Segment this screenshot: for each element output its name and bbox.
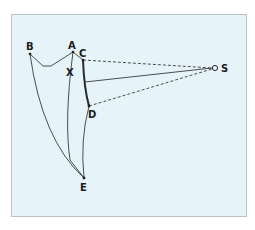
point-d-dot bbox=[88, 105, 91, 108]
diagram-canvas: B A C X D E S bbox=[0, 0, 255, 230]
label-s: S bbox=[221, 63, 228, 74]
label-e: E bbox=[80, 182, 87, 193]
point-a-dot bbox=[72, 51, 75, 54]
point-e-dot bbox=[83, 177, 86, 180]
label-a: A bbox=[68, 40, 76, 51]
source-point-s bbox=[212, 65, 217, 70]
top-zigzag-line bbox=[30, 52, 83, 66]
point-b-dot bbox=[29, 53, 32, 56]
arc-c-d bbox=[83, 60, 89, 106]
label-c: C bbox=[79, 48, 86, 59]
curve-b-e bbox=[30, 54, 84, 178]
dashed-line-c-s bbox=[83, 60, 212, 68]
point-c-dot bbox=[82, 59, 85, 62]
label-d: D bbox=[88, 109, 96, 120]
label-b: B bbox=[26, 41, 34, 52]
label-x: X bbox=[66, 67, 74, 78]
solid-line-mid-s bbox=[85, 68, 212, 82]
